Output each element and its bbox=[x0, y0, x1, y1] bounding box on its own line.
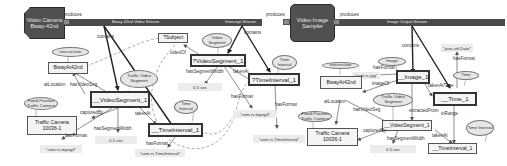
class-traffic-video-segment[interactable]: Traffic Video Segment bbox=[373, 93, 413, 107]
edge-label-has-format: hasFormat bbox=[275, 103, 297, 108]
edge-label-has-format: hasFormat bbox=[231, 95, 253, 100]
stream-label-intercept: Intercept Stream bbox=[225, 20, 256, 24]
sampler-output-port bbox=[333, 19, 340, 25]
edge-label-has-format: hasFormat bbox=[373, 66, 395, 71]
edge-label-extracted-from: extractedFrom bbox=[409, 109, 439, 114]
sampler-input-port bbox=[283, 19, 290, 25]
literal-java-date: "java.util.Date" bbox=[441, 44, 473, 52]
class-time[interactable]: Time bbox=[453, 71, 479, 80]
edge-label-taken-at-time: takenAtTime bbox=[428, 84, 454, 89]
class-time-interval[interactable]: Time Interval bbox=[174, 100, 198, 114]
literal-mpeg4: "com.rs.mpeg4" bbox=[40, 145, 82, 153]
class-traffic-video-segment[interactable]: Traffic Video Segment bbox=[120, 70, 158, 88]
edge-label-captured-by: capturedBy bbox=[363, 129, 386, 134]
class-intersection[interactable]: intersection bbox=[52, 47, 89, 57]
class-fixed-position-traffic-camera[interactable]: Fixed-Position Traffic Camera bbox=[298, 111, 332, 122]
edge-label-has-format: hasFormat bbox=[453, 57, 475, 62]
edge-label-has-segment-width: hasSegmentWidth bbox=[94, 127, 132, 132]
edge-label-captured-by: capturedBy bbox=[80, 111, 103, 116]
edge-label-produces: produces bbox=[266, 13, 285, 18]
video-image-sampler-component[interactable]: Video Image Sampler bbox=[290, 4, 335, 42]
class-intersection[interactable]: intersection bbox=[322, 62, 359, 69]
node-time[interactable]: __Time_1 bbox=[433, 92, 477, 106]
stream-label-bway: Bway 42nd Video Stream bbox=[112, 20, 159, 24]
video-camera-component[interactable]: Video Camera Bway-42nd bbox=[24, 7, 65, 39]
edge-label-contains: contains bbox=[244, 31, 261, 36]
edge-label-has-segment-width: hasSegmentWidth bbox=[186, 70, 224, 75]
edge-label-contains: contains bbox=[97, 35, 114, 40]
literal-time-interval-format: "com.rs.TimeInterval" bbox=[135, 149, 185, 157]
camera-output-port bbox=[63, 19, 70, 25]
class-video-segment[interactable]: Video Segment bbox=[202, 33, 232, 48]
edge-label-in-range: inRange bbox=[441, 112, 458, 117]
node-time-interval[interactable]: __TimeInterval_1 bbox=[428, 143, 477, 154]
literal-segment-length: 0.5 sec bbox=[95, 136, 137, 144]
stream-label-image-output: Image Output Stream bbox=[387, 20, 427, 24]
edge-label-taken-at: takenAt bbox=[233, 70, 249, 75]
edge-label-contains: contains bbox=[402, 44, 419, 49]
edge-label-at-location: atLocation bbox=[44, 83, 65, 88]
node-bway-at-42nd[interactable]: BwayAt42nd bbox=[320, 76, 362, 89]
edge-label-has-video-seg: hasVideoSeg bbox=[70, 83, 97, 88]
edge-label-at-location: atLocation bbox=[324, 100, 345, 105]
literal-segment-length: 0.5 sec bbox=[370, 145, 416, 153]
edge-label-produces: produces bbox=[340, 13, 359, 18]
edge-label-taken-at: takenAt bbox=[135, 112, 151, 117]
literal-mpeg4: "com.rs.mpeg4" bbox=[233, 110, 277, 118]
class-time-interval[interactable]: Time Interval bbox=[466, 120, 494, 136]
edge-label-produces: produces bbox=[63, 13, 82, 18]
edge-label-has-segment-width: hasSegmentWidth bbox=[387, 137, 425, 142]
class-fixed-position-traffic-camera[interactable]: Fixed-Position Traffic Camera bbox=[24, 97, 58, 110]
node-subject-variable[interactable]: ?Subject bbox=[158, 33, 188, 43]
edge-label-taken-at: takenAt bbox=[432, 134, 448, 139]
edge-label-image-of: imageOf bbox=[372, 82, 389, 87]
class-time-interval[interactable]: Time Interval bbox=[272, 55, 297, 70]
literal-segment-length: 0.5 sec bbox=[178, 83, 222, 91]
edge-label-has-format: hasFormat bbox=[146, 142, 168, 147]
node-time-interval-variable[interactable]: ?TimeInterval_1 bbox=[248, 73, 300, 86]
edge-label-video-of: videoOf bbox=[170, 51, 186, 56]
node-video-segment[interactable]: __VideoSegment_1 bbox=[382, 120, 432, 131]
node-bway-at-42nd[interactable]: BwayAt42nd bbox=[48, 62, 88, 74]
node-traffic-camera[interactable]: Traffic Camera 10036-1 bbox=[307, 128, 358, 146]
edge-label-has-video-seg: hasVideoSeg bbox=[353, 108, 380, 113]
literal-time-interval-format: "com.rs.TimeInterval" bbox=[253, 135, 305, 143]
edge-label-has-format: hasFormat bbox=[65, 134, 87, 139]
node-image[interactable]: __Image_1 bbox=[396, 70, 430, 84]
node-video-segment-variable[interactable]: ?VideoSegment_1 bbox=[190, 54, 246, 67]
node-time-interval[interactable]: __TimeInterval_1 bbox=[148, 123, 203, 137]
node-video-segment[interactable]: __VideoSegment_1 bbox=[90, 91, 150, 108]
